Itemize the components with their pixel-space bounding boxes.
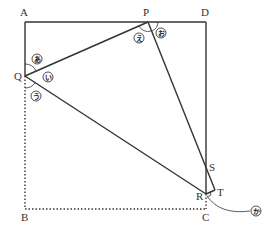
line-QP: [25, 22, 148, 76]
label-C: C: [202, 211, 209, 223]
fold-lines: [25, 22, 215, 194]
label-T: T: [217, 186, 224, 198]
square-dotted-edges: [25, 76, 206, 209]
svg-text:お: お: [158, 29, 165, 38]
angle-label-u: う: [31, 91, 41, 101]
angle-label-o: お: [156, 28, 166, 38]
arc-Q-lower: [25, 83, 35, 88]
square-solid-edges: [25, 22, 206, 194]
angle-labels: あ い う え お か: [31, 28, 261, 216]
label-A: A: [20, 6, 28, 18]
angle-label-a: あ: [32, 54, 42, 64]
diagram-canvas: A D P Q B C S T R あ い う え お: [0, 0, 274, 235]
svg-text:い: い: [45, 74, 52, 82]
svg-text:あ: あ: [34, 55, 41, 64]
angle-label-e: え: [134, 33, 144, 43]
angle-label-i: い: [43, 72, 53, 82]
line-QR: [25, 76, 206, 194]
svg-text:え: え: [136, 34, 143, 43]
arc-Q-upper: [25, 64, 36, 71]
label-B: B: [21, 211, 28, 223]
point-labels: A D P Q B C S T R: [14, 6, 224, 223]
svg-text:か: か: [253, 208, 260, 216]
label-P: P: [143, 6, 149, 18]
label-R: R: [196, 190, 204, 202]
line-PT: [148, 22, 215, 190]
label-Q: Q: [14, 70, 22, 82]
angle-label-ka: か: [251, 206, 261, 216]
svg-text:う: う: [33, 92, 40, 101]
callout-curve-ka: [207, 196, 250, 212]
label-S: S: [209, 161, 215, 173]
label-D: D: [201, 6, 209, 18]
